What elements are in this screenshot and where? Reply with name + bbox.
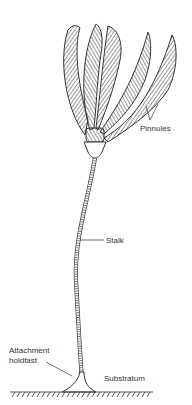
label-holdfast: holdfast bbox=[9, 356, 37, 365]
substratum-line bbox=[10, 392, 153, 397]
label-attachment: Attachment bbox=[9, 346, 49, 355]
crinoid-illustration bbox=[0, 0, 192, 405]
stalk bbox=[76, 158, 95, 382]
holdfast bbox=[62, 372, 96, 392]
label-pinnules: Pinnules bbox=[140, 124, 171, 133]
calyx bbox=[84, 128, 106, 158]
label-stalk: Stalk bbox=[106, 236, 124, 245]
crinoid-diagram: Pinnules Stalk Attachment holdfast Subst… bbox=[0, 0, 192, 405]
label-substratum: Substratum bbox=[104, 374, 145, 383]
